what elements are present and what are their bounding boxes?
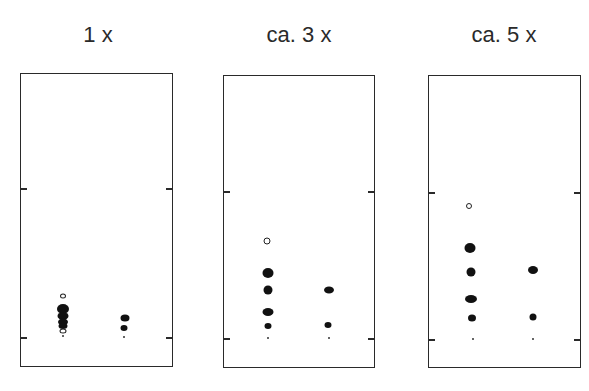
tick-mark-left [223, 338, 230, 340]
spot-lane-1-filled [465, 295, 477, 303]
origin-dot [267, 337, 269, 339]
tick-mark-left [428, 192, 435, 194]
tick-mark-left [20, 337, 27, 339]
spot-lane-1-filled [263, 268, 274, 278]
tick-mark-right [166, 188, 173, 190]
spot-lane-2-filled [530, 314, 537, 321]
spot-lane-1-filled [263, 308, 274, 316]
tlc-plate-3 [428, 75, 581, 368]
spot-lane-2-filled [528, 266, 538, 274]
tick-mark-right [368, 191, 375, 193]
tick-mark-left [20, 188, 27, 190]
spot-lane-1-filled [467, 268, 476, 277]
tick-mark-right [166, 337, 173, 339]
origin-dot [62, 335, 64, 337]
panel-3-title: ca. 5 x [424, 22, 584, 48]
spot-lane-1-filled [264, 286, 273, 295]
tick-mark-right [574, 192, 581, 194]
origin-dot [472, 338, 474, 340]
origin-dot [532, 338, 534, 340]
tick-mark-right [574, 339, 581, 341]
spot-lane-1-open [264, 238, 271, 245]
panel-1-title: 1 x [18, 22, 178, 48]
spot-lane-1-open [60, 294, 66, 299]
tlc-plate-1 [20, 73, 173, 367]
origin-dot [123, 336, 125, 338]
tick-mark-left [428, 339, 435, 341]
spot-lane-1-filled [265, 323, 272, 329]
spot-lane-1-open [466, 203, 472, 209]
spot-lane-2-filled [325, 322, 332, 328]
tlc-plate-2 [223, 75, 375, 368]
spot-lane-1-open [60, 329, 67, 334]
spot-lane-2-filled [324, 287, 334, 294]
spot-lane-2-filled [121, 325, 128, 331]
tick-mark-right [368, 338, 375, 340]
panel-2-title: ca. 3 x [219, 22, 379, 48]
spot-lane-2-filled [121, 315, 130, 322]
origin-dot [328, 337, 330, 339]
spot-lane-1-filled [465, 243, 476, 253]
spot-lane-1-filled [468, 315, 476, 322]
tick-mark-left [223, 191, 230, 193]
